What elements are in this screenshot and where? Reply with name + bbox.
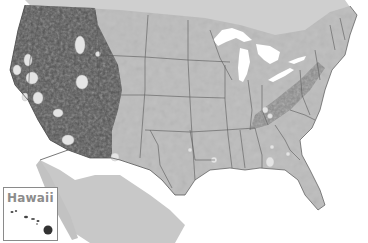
hawaii-islands: [4, 188, 57, 240]
hawaii-inset: Hawaii: [3, 187, 58, 241]
